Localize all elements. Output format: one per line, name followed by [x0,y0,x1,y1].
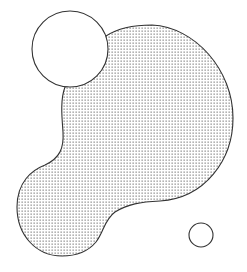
diagram-canvas [0,0,247,272]
small-empty-circle [189,223,213,247]
large-empty-circle [32,11,108,87]
